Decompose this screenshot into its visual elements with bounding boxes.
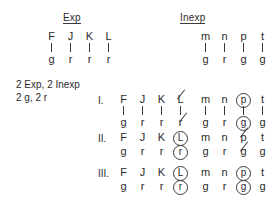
letter-token: g [202, 180, 209, 192]
letter-column: nr [215, 166, 234, 192]
letter-token: L [173, 131, 188, 143]
letter-token: J [139, 131, 146, 143]
letter-token: g [120, 145, 127, 157]
letter-column: Jr [61, 30, 80, 65]
connector-line [142, 106, 143, 115]
column-header-exp: Exp [63, 12, 81, 24]
connector-line [205, 43, 206, 52]
circled-marker: g [236, 180, 251, 195]
letter-column: mg [196, 131, 215, 157]
letter-token: F [120, 131, 127, 143]
legend-line-1: 2 Exp, 2 Inexp [16, 78, 80, 91]
letter-token: L [177, 93, 184, 105]
letter-token: r [139, 180, 146, 192]
strikethrough-marker: p [240, 131, 246, 143]
row-numeral: III. [98, 168, 109, 179]
row-numeral: I. [98, 95, 104, 106]
connector-line [224, 106, 225, 115]
letter-token: K [158, 166, 165, 178]
row-exp-group: FgJrKrLr [114, 131, 190, 157]
letter-token: r [158, 145, 165, 157]
letter-token: n [221, 93, 228, 105]
letter-token: F [48, 30, 55, 42]
letter-token: n [221, 166, 228, 178]
circled-marker: L [173, 166, 188, 181]
letter-token: r [139, 145, 146, 157]
letter-column: Lr [171, 166, 190, 192]
letter-token: J [67, 30, 74, 42]
letter-column: pg [234, 131, 253, 157]
letter-token: r [139, 116, 146, 128]
letter-column: Lr [171, 93, 190, 128]
row-inexp-group: mgnrpgtg [196, 93, 271, 128]
top-table-exp-group: FgJrKrLr [42, 30, 118, 65]
row-exp-group: FgJrKrLr [114, 166, 190, 192]
row-numeral: II. [98, 133, 106, 144]
letter-token: m [201, 30, 210, 42]
letter-token: K [158, 131, 165, 143]
letter-grid: FgJrKrLr [114, 93, 190, 128]
letter-column: tg [253, 93, 271, 128]
letter-token: g [259, 180, 266, 192]
letter-token: r [221, 53, 228, 65]
connector-line [161, 106, 162, 115]
strikethrough-marker: g [240, 145, 246, 157]
letter-token: r [177, 116, 184, 128]
column-header-inexp: Inexp [180, 12, 205, 24]
top-table-inexp-group: mgnrpgtg [196, 30, 271, 65]
letter-token: r [221, 116, 228, 128]
circled-marker: p [236, 166, 251, 181]
letter-token: g [120, 180, 127, 192]
letter-column: mg [196, 166, 215, 192]
row-exp-group: FgJrKrLr [114, 93, 190, 128]
letter-token: g [202, 145, 209, 157]
worksheet-canvas: Exp Inexp 2 Exp, 2 Inexp 2 g, 2 r FgJrKr… [0, 0, 271, 214]
letter-column: Kr [152, 93, 171, 128]
letter-token: g [48, 53, 55, 65]
letter-column: pg [234, 166, 253, 192]
letter-token: m [201, 93, 210, 105]
letter-column: Fg [114, 93, 133, 128]
letter-token: m [201, 131, 210, 143]
letter-token: F [120, 166, 127, 178]
letter-column: Fg [42, 30, 61, 65]
letter-token: r [173, 145, 188, 157]
letter-column: Fg [114, 166, 133, 192]
letter-token: t [259, 30, 266, 42]
letter-token: t [259, 131, 266, 143]
letter-token: p [236, 166, 251, 178]
letter-token: J [139, 166, 146, 178]
letter-column: pg [234, 30, 253, 65]
letter-token: p [236, 93, 251, 105]
connector-line [262, 43, 263, 52]
letter-column: Lr [99, 30, 118, 65]
letter-token: r [86, 53, 93, 65]
circled-marker: p [236, 93, 251, 108]
letter-token: g [236, 116, 251, 128]
letter-token: r [173, 180, 188, 192]
letter-token: g [236, 180, 251, 192]
letter-token: t [259, 93, 266, 105]
letter-column: pg [234, 93, 253, 128]
legend-line-2: 2 g, 2 r [16, 91, 47, 104]
letter-token: r [105, 53, 112, 65]
letter-column: Jr [133, 93, 152, 128]
letter-token: g [120, 116, 127, 128]
connector-line [51, 43, 52, 52]
letter-token: K [86, 30, 93, 42]
letter-column: mg [196, 93, 215, 128]
letter-token: g [240, 53, 247, 65]
letter-token: r [158, 116, 165, 128]
connector-line [108, 43, 109, 52]
letter-column: nr [215, 30, 234, 65]
letter-token: g [259, 53, 266, 65]
strikethrough-marker: L [177, 93, 183, 105]
letter-column: Kr [152, 166, 171, 192]
letter-column: nr [215, 131, 234, 157]
letter-grid: FgJrKrLr [42, 30, 118, 65]
letter-token: n [221, 30, 228, 42]
letter-grid: mgnrpgtg [196, 166, 271, 192]
letter-token: m [201, 166, 210, 178]
circled-marker: r [173, 145, 188, 160]
letter-column: mg [196, 30, 215, 65]
